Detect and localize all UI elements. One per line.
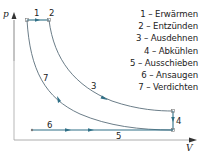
legend-item-3: 3 – Ausdehnen: [130, 32, 198, 44]
point-label-4: 4: [176, 116, 181, 126]
point-label-3: 3: [91, 81, 96, 91]
process-6-arrow-icon: [65, 128, 71, 132]
point-label-7: 7: [43, 73, 48, 83]
x-axis-label: V: [186, 143, 193, 153]
legend-item-4: 4 – Abkühlen: [130, 45, 198, 57]
point-label-2: 2: [49, 8, 54, 18]
legend-item-6: 6 – Ansaugen: [130, 69, 198, 81]
process-4-arrow-icon: [171, 117, 175, 122]
legend-item-1: 1 – Erwärmen: [130, 8, 198, 20]
legend-item-2: 2 – Entzünden: [130, 20, 198, 32]
point-6-start-marker: [31, 129, 33, 131]
point-label-6: 6: [47, 120, 52, 130]
y-axis-arrow-icon: [12, 12, 17, 19]
legend-item-5: 5 – Ausschieben: [130, 57, 198, 69]
x-axis-arrow-icon: [189, 138, 197, 143]
y-axis-label: p: [3, 9, 9, 19]
process-6-arrow-icon-2: [88, 128, 94, 132]
legend: 1 – Erwärmen 2 – Entzünden 3 – Ausdehnen…: [130, 8, 198, 93]
point-label-1: 1: [34, 8, 39, 18]
process-1-arrow-icon: [35, 18, 40, 22]
point-label-5: 5: [116, 131, 121, 141]
legend-item-7: 7 – Verdichten: [130, 81, 198, 93]
